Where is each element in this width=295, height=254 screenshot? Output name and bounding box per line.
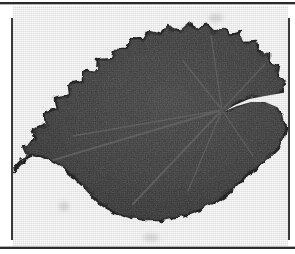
bottom-horizontal-rule [0, 247, 295, 249]
top-horizontal-rule [0, 2, 295, 4]
figure-page [0, 0, 295, 254]
vein-origin-node [220, 108, 224, 112]
figure-plate [13, 6, 288, 246]
leaf-illustration [13, 6, 288, 246]
right-vertical-rule [288, 18, 290, 240]
